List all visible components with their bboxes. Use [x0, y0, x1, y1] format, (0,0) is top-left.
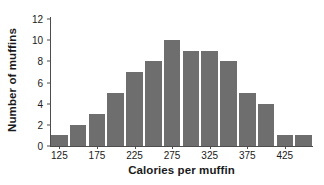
x-tick-mark [59, 146, 60, 149]
x-tick-label: 425 [276, 150, 293, 161]
y-axis-title: Number of muffins [0, 0, 24, 160]
bar [239, 93, 256, 146]
bar-series [50, 19, 313, 146]
bar [295, 135, 312, 146]
x-tick-mark [247, 146, 248, 149]
x-tick-mark [285, 146, 286, 149]
bar [107, 93, 124, 146]
bar [258, 104, 275, 146]
bar [183, 51, 200, 146]
y-tick-label: 4 [37, 98, 43, 109]
x-tick-mark [210, 146, 211, 149]
x-tick-label: 175 [89, 150, 106, 161]
bar [51, 135, 68, 146]
y-tick-label: 6 [37, 77, 43, 88]
bar [70, 125, 87, 146]
bar [126, 72, 143, 146]
y-axis-title-label: Number of muffins [6, 28, 18, 132]
x-tick-label: 325 [201, 150, 218, 161]
x-axis-tick-labels: 125175225275325375425 [50, 146, 313, 164]
y-tick-label: 12 [32, 14, 43, 25]
x-tick-mark [172, 146, 173, 149]
bar [89, 114, 106, 146]
bar [201, 51, 218, 146]
x-tick-label: 375 [239, 150, 256, 161]
x-tick-mark [97, 146, 98, 149]
x-axis-title: Calories per muffin [50, 164, 313, 176]
x-tick-label: 125 [51, 150, 68, 161]
bar [220, 61, 237, 146]
x-tick-label: 225 [126, 150, 143, 161]
y-tick-label: 10 [32, 35, 43, 46]
y-tick-label: 8 [37, 56, 43, 67]
bar [164, 40, 181, 146]
histogram-chart: Number of muffins 024681012 125175225275… [0, 0, 324, 185]
y-tick-label: 0 [37, 141, 43, 152]
x-tick-mark [135, 146, 136, 149]
bar [145, 61, 162, 146]
y-axis-tick-labels: 024681012 [24, 13, 47, 153]
plot-area [50, 19, 313, 146]
y-tick-label: 2 [37, 119, 43, 130]
x-tick-label: 275 [164, 150, 181, 161]
bar [277, 135, 294, 146]
